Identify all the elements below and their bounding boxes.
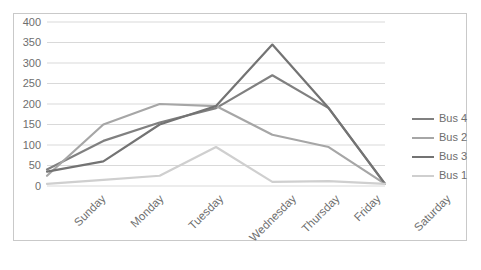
legend-item-bus-2[interactable]: Bus 2 <box>412 128 481 147</box>
chart-container: 400350300250200150100500 SundayMondayTue… <box>13 13 467 241</box>
legend-color-swatch <box>412 156 434 158</box>
legend-color-swatch <box>412 137 434 139</box>
series-line-bus-3 <box>47 45 385 184</box>
y-axis-tick-label: 250 <box>14 78 41 89</box>
y-axis-tick-label: 150 <box>14 119 41 130</box>
legend-item-bus-1[interactable]: Bus 1 <box>412 166 481 185</box>
legend-color-swatch <box>412 175 434 177</box>
legend-label: Bus 1 <box>439 170 467 181</box>
y-axis-tick-label: 350 <box>14 37 41 48</box>
legend-label: Bus 2 <box>439 132 467 143</box>
legend-label: Bus 4 <box>439 113 467 124</box>
legend-item-bus-4[interactable]: Bus 4 <box>412 109 481 128</box>
chart-legend: Bus 4Bus 2Bus 3Bus 1 <box>412 109 481 185</box>
y-axis-tick-label: 300 <box>14 58 41 69</box>
y-axis-tick-label: 0 <box>14 181 41 192</box>
y-axis-tick-label: 200 <box>14 99 41 110</box>
y-axis-tick-label: 50 <box>14 160 41 171</box>
y-axis-tick-label: 400 <box>14 17 41 28</box>
legend-item-bus-3[interactable]: Bus 3 <box>412 147 481 166</box>
legend-color-swatch <box>412 118 434 120</box>
line-chart-plot <box>14 14 466 240</box>
y-axis-tick-label: 100 <box>14 140 41 151</box>
legend-label: Bus 3 <box>439 151 467 162</box>
